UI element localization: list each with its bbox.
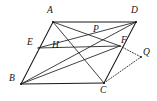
point-label-D: D [131, 6, 138, 16]
side-AB-line [21, 22, 53, 84]
segment-EF-line [38, 46, 120, 48]
point-label-A: A [47, 6, 53, 16]
vertex-dot-D [135, 21, 137, 23]
side-DC-line [104, 22, 136, 83]
point-label-Q: Q [143, 48, 150, 58]
side-BC-line [21, 83, 104, 84]
point-label-E: E [27, 38, 33, 48]
vertex-dot-C [103, 82, 105, 84]
point-label-B: B [9, 74, 15, 84]
point-label-F: F [121, 36, 127, 46]
segment-BF-line [21, 46, 120, 84]
geometry-figure: A D B C E F P H Q [0, 0, 157, 101]
segment-CQ-line [104, 57, 141, 83]
vertex-dot-Q [140, 56, 142, 58]
point-label-P: P [93, 25, 99, 35]
point-label-H: H [52, 41, 59, 51]
point-label-C: C [100, 86, 106, 96]
vertex-dot-A [52, 21, 54, 23]
vertex-dot-B [20, 83, 22, 85]
segment-FQ-line [120, 46, 141, 57]
